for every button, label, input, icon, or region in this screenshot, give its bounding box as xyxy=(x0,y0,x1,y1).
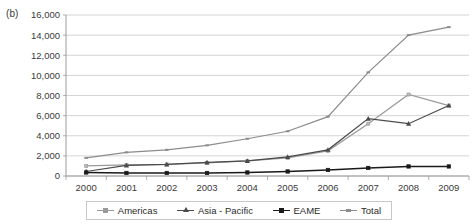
legend-item-label: Total xyxy=(361,205,381,216)
data-point-marker xyxy=(246,138,250,140)
legend-item-total[interactable]: Total xyxy=(340,205,381,216)
legend-item-eame[interactable]: EAME xyxy=(273,205,321,216)
series-total xyxy=(84,26,450,159)
legend-item-label: EAME xyxy=(294,205,321,216)
y-axis-tick-label: 0 xyxy=(55,170,60,181)
data-point-marker xyxy=(367,166,370,169)
series-line xyxy=(86,166,449,173)
x-axis-tick-label: 2003 xyxy=(196,182,217,193)
data-point-marker xyxy=(407,165,410,168)
data-point-marker xyxy=(326,116,330,118)
data-point-marker xyxy=(326,168,329,171)
data-point-marker xyxy=(447,165,450,168)
data-point-marker xyxy=(366,71,370,73)
data-point-marker xyxy=(286,130,290,132)
series-line xyxy=(86,94,449,165)
data-point-marker xyxy=(125,151,129,153)
x-axis-tick-label: 2005 xyxy=(277,182,298,193)
legend-item-americas[interactable]: Americas xyxy=(97,205,158,216)
chart-legend: AmericasAsia - PacificEAMETotal xyxy=(86,201,392,220)
y-axis-tick-label: 10,000 xyxy=(31,70,60,81)
line-chart: 02,0004,0006,0008,00010,00012,00014,0001… xyxy=(0,0,476,224)
x-axis-tick-label: 2007 xyxy=(358,182,379,193)
data-point-marker xyxy=(407,34,411,36)
legend-item-label: Americas xyxy=(118,205,158,216)
data-point-marker xyxy=(407,93,410,96)
data-point-marker xyxy=(447,26,451,28)
data-point-marker xyxy=(84,171,87,174)
data-point-marker xyxy=(165,171,168,174)
data-point-marker xyxy=(85,164,88,167)
series-asia-pacific xyxy=(84,103,452,174)
data-point-marker xyxy=(205,144,209,146)
y-axis-tick-label: 2,000 xyxy=(36,150,60,161)
x-axis-tick-label: 2006 xyxy=(317,182,338,193)
data-point-marker xyxy=(367,122,370,125)
data-point-marker xyxy=(165,149,169,151)
data-point-marker xyxy=(125,171,128,174)
series-eame xyxy=(84,165,450,175)
legend-item-asia-pacific[interactable]: Asia - Pacific xyxy=(177,205,253,216)
legend-marker-icon xyxy=(177,206,194,215)
figure-panel: (b) 02,0004,0006,0008,00010,00012,00014,… xyxy=(0,0,476,224)
legend-marker-icon xyxy=(97,206,114,215)
x-axis-tick-label: 2000 xyxy=(76,182,97,193)
x-axis-tick-label: 2009 xyxy=(438,182,459,193)
legend-item-label: Asia - Pacific xyxy=(198,205,253,216)
data-point-marker xyxy=(286,170,289,173)
x-axis-tick-label: 2001 xyxy=(116,182,137,193)
legend-marker-icon xyxy=(273,206,290,215)
x-axis-tick-label: 2004 xyxy=(237,182,258,193)
x-axis-tick-label: 2002 xyxy=(156,182,177,193)
legend-marker-icon xyxy=(340,206,357,215)
data-point-marker xyxy=(246,171,249,174)
y-axis-tick-label: 12,000 xyxy=(31,50,60,61)
data-point-marker xyxy=(84,157,88,159)
y-axis-tick-label: 6,000 xyxy=(36,110,60,121)
y-axis-tick-label: 16,000 xyxy=(31,9,60,20)
x-axis-tick-label: 2008 xyxy=(398,182,419,193)
y-axis-tick-label: 4,000 xyxy=(36,130,60,141)
series-line xyxy=(86,27,449,158)
data-point-marker xyxy=(205,171,208,174)
y-axis-tick-label: 14,000 xyxy=(31,30,60,41)
y-axis-tick-label: 8,000 xyxy=(36,90,60,101)
